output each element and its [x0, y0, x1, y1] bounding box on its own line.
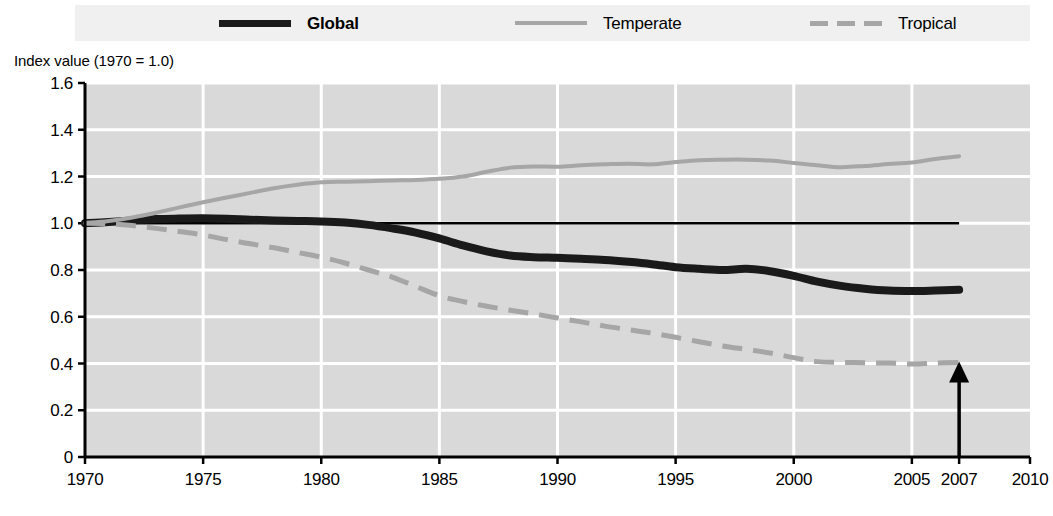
figure-caption: [8, 506, 1038, 516]
x-tick-label: 1985: [404, 471, 474, 488]
x-tick-label: 2000: [759, 471, 829, 488]
y-tick-label: 0.4: [27, 356, 73, 373]
y-tick-label: 1.2: [27, 169, 73, 186]
x-tick-label: 1990: [523, 471, 593, 488]
y-tick-label: 1.0: [27, 215, 73, 232]
y-tick-label: 0.6: [27, 309, 73, 326]
x-tick-label: 2007: [924, 471, 994, 488]
y-tick-label: 1.4: [27, 122, 73, 139]
y-tick-label: 0.2: [27, 402, 73, 419]
x-tick-label: 1995: [641, 471, 711, 488]
y-tick-label: 0.8: [27, 262, 73, 279]
x-tick-label: 1980: [286, 471, 356, 488]
y-tick-label: 0: [27, 449, 73, 466]
x-tick-label: 2010: [995, 471, 1053, 488]
x-tick-label: 1970: [50, 471, 120, 488]
y-tick-label: 1.6: [27, 75, 73, 92]
x-tick-label: 1975: [168, 471, 238, 488]
